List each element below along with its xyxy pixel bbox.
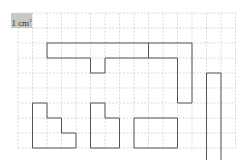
unit-label: 1 cm2 [11, 13, 32, 28]
grid-diagram [0, 0, 249, 160]
unit-label-superscript: 2 [29, 18, 32, 23]
vertical-bar [207, 73, 222, 160]
unit-label-text: 1 cm [11, 18, 29, 28]
t-shape [47, 43, 149, 73]
staircase-left [33, 103, 77, 148]
